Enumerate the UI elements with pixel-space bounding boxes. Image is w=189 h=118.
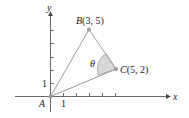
point-c	[114, 67, 118, 71]
x-tick-label: 1	[61, 98, 66, 109]
side-ab	[51, 30, 90, 97]
point-b	[87, 28, 91, 32]
y-ticks	[51, 31, 55, 84]
y-tick-label: 1	[42, 78, 47, 89]
point-c-label: C(5, 2)	[120, 64, 148, 76]
x-ticks	[64, 93, 116, 97]
point-b-label: B(3, 5)	[76, 15, 104, 27]
point-a	[49, 95, 53, 99]
point-a-label: A	[38, 98, 46, 109]
triangle-diagram: y x 1 1 A B(3, 5) C(5, 2) θ	[0, 0, 189, 118]
x-axis-label: x	[172, 91, 178, 102]
angle-theta-label: θ	[90, 58, 95, 69]
y-axis-label: y	[46, 2, 52, 13]
side-ac	[51, 69, 117, 97]
